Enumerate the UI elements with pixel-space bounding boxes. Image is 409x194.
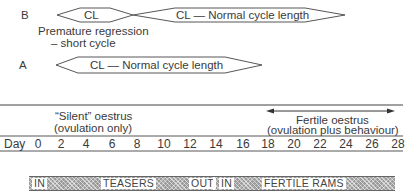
bar-segment-teasers: TEASERS <box>101 178 156 189</box>
bar-segment-fertile-rams: FERTILE RAMS <box>262 178 346 189</box>
day-tick: 18 <box>256 137 280 151</box>
short-cycle-label: CL <box>84 9 99 22</box>
day-tick: 2 <box>49 137 73 151</box>
day-tick: 10 <box>152 137 176 151</box>
day-tick: 12 <box>178 137 202 151</box>
day-tick: 24 <box>334 137 358 151</box>
ram-schedule-bar: IN TEASERS OUT IN FERTILE RAMS <box>29 176 395 191</box>
row-a-label: A <box>19 59 27 72</box>
fertile-arrow-left-head <box>266 109 274 114</box>
short-cycle-note: – short cycle <box>51 37 116 50</box>
day-tick: 28 <box>386 137 409 151</box>
bar-segment-in-teasers: IN <box>32 178 47 189</box>
fertile-oestrus-note: (ovulation plus behaviour) <box>267 124 399 137</box>
day-axis-label: Day <box>4 137 25 151</box>
day-tick: 22 <box>308 137 332 151</box>
b-normal-cycle-label: CL — Normal cycle length <box>176 9 309 22</box>
a-normal-cycle-label: CL — Normal cycle length <box>90 59 223 72</box>
row-b-label: B <box>21 9 29 22</box>
day-tick: 14 <box>204 137 228 151</box>
day-tick: 0 <box>26 137 50 151</box>
bar-segment-in-rams: IN <box>219 178 234 189</box>
day-tick: 16 <box>231 137 255 151</box>
day-tick: 8 <box>125 137 149 151</box>
day-tick: 6 <box>100 137 124 151</box>
day-tick: 26 <box>360 137 384 151</box>
fertile-arrow-right-head <box>387 109 395 114</box>
day-tick: 20 <box>282 137 306 151</box>
day-tick: 4 <box>74 137 98 151</box>
silent-oestrus-note: (ovulation only) <box>54 122 132 135</box>
bar-divider <box>213 177 215 190</box>
